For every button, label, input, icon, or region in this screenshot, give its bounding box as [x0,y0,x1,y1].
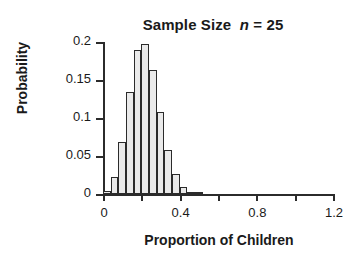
y-tick: 0.15 [96,80,103,82]
x-tick-label: 0.4 [172,205,190,220]
y-tick-label: 0 [84,185,91,200]
plot-area: 00.050.10.150.2 00.40.81.2 [103,42,333,194]
y-axis-title: Probability [14,18,30,138]
x-tick: 0.4 [180,194,182,201]
x-tick [295,194,297,201]
y-axis-spine [103,42,105,195]
x-tick-label: 1.2 [325,205,343,220]
histogram-bar [118,142,126,194]
histogram-bar [126,92,134,194]
y-tick: 0.05 [96,156,103,158]
y-tick-label: 0.05 [66,147,91,162]
x-tick-label: 0 [100,205,107,220]
x-tick-label: 0.8 [248,205,266,220]
x-tick: 1.2 [333,194,335,201]
histogram-bar [141,44,149,194]
chart-title: Sample Size n = 25 [108,16,318,33]
histogram-bar [103,191,111,194]
histogram-figure: Sample Size n = 25 Probability 00.050.10… [0,0,349,264]
chart-title-text: Sample Size [143,16,232,33]
y-tick-label: 0.2 [73,33,91,48]
histogram-bar [164,150,172,194]
histogram-bar [180,187,188,194]
histogram-bar [157,112,165,194]
y-tick: 0.2 [96,42,103,44]
x-tick [218,194,220,201]
x-tick: 0.8 [256,194,258,201]
histogram-bar [172,174,180,194]
y-tick-label: 0.15 [66,71,91,86]
y-tick: 0.1 [96,118,103,120]
histogram-bar [187,192,195,194]
histogram-bar [134,50,142,194]
histogram-bar [195,192,203,194]
chart-title-variable: n [240,16,249,33]
histogram-bar [149,70,157,194]
histogram-bar [111,177,119,194]
x-tick [141,194,143,201]
y-tick-label: 0.1 [73,109,91,124]
y-tick: 0 [96,194,103,196]
x-axis-title: Proportion of Children [103,232,335,248]
chart-title-value: = 25 [253,16,283,33]
x-tick: 0 [103,194,105,201]
